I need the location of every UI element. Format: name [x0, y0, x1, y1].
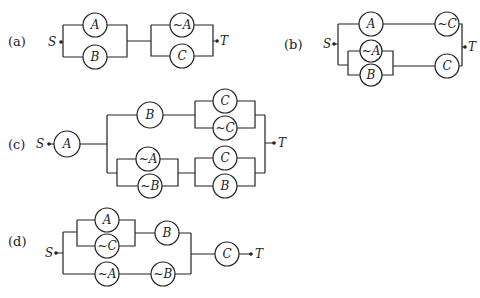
switch-d-notC: ~C	[95, 234, 119, 258]
switch-d-B: B	[155, 221, 179, 245]
terminal-dot-b	[463, 45, 467, 49]
svg-text:A: A	[366, 17, 376, 31]
figure-b: (b) S A ~C ~A B C T	[284, 12, 477, 86]
terminal-label-c: T	[278, 136, 287, 150]
svg-text:B: B	[220, 179, 230, 193]
switch-b-B: B	[360, 64, 382, 86]
svg-text:~C: ~C	[437, 17, 456, 31]
source-label-d: S	[45, 246, 53, 260]
svg-text:B: B	[145, 108, 155, 122]
terminal-label-a: T	[220, 34, 229, 48]
figure-label-d: (d)	[8, 234, 26, 249]
switch-d-C: C	[215, 242, 239, 266]
terminal-dot-a	[215, 39, 219, 43]
svg-text:A: A	[90, 18, 100, 32]
switch-c-C-bottom: C	[213, 146, 237, 170]
switch-b-C: C	[435, 54, 459, 78]
svg-text:A: A	[62, 137, 72, 151]
svg-text:C: C	[222, 247, 231, 261]
source-label-a: S	[48, 35, 56, 49]
svg-text:C: C	[442, 59, 451, 73]
source-label-c: S	[36, 137, 44, 151]
svg-text:~A: ~A	[362, 44, 381, 58]
circuit-diagrams: (a) S A B ~A C T (b) S A	[0, 0, 480, 298]
switch-c-C-top: C	[213, 89, 237, 113]
switch-a-C: C	[170, 44, 194, 68]
switch-c-notC: ~C	[213, 116, 237, 140]
switch-c-A: A	[54, 131, 80, 157]
svg-text:B: B	[366, 68, 376, 82]
switch-b-A: A	[359, 12, 383, 36]
figure-label-b: (b)	[284, 37, 302, 52]
switch-a-A: A	[83, 13, 107, 37]
terminal-dot-d	[249, 252, 253, 256]
figure-c: (c) S A B C ~C ~A ~B C	[8, 89, 287, 198]
switch-d-A: A	[95, 208, 119, 232]
switch-c-B-top: B	[137, 102, 163, 128]
svg-text:C: C	[177, 49, 186, 63]
svg-text:C: C	[220, 94, 229, 108]
switch-c-B-bottom: B	[213, 174, 237, 198]
svg-text:B: B	[90, 50, 100, 64]
svg-text:~C: ~C	[97, 239, 116, 253]
switch-a-B: B	[83, 45, 107, 69]
svg-text:A: A	[102, 213, 112, 227]
svg-text:C: C	[220, 151, 229, 165]
figure-d: (d) S A ~C B ~A ~B C T	[8, 208, 264, 286]
svg-text:B: B	[162, 226, 172, 240]
svg-text:~B: ~B	[154, 267, 173, 281]
switch-d-notB: ~B	[151, 262, 175, 286]
switch-d-notA: ~A	[95, 262, 119, 286]
switch-a-notA: ~A	[170, 13, 194, 37]
svg-text:~A: ~A	[139, 152, 158, 166]
terminal-label-b: T	[468, 40, 477, 54]
svg-text:~A: ~A	[173, 18, 192, 32]
figure-label-c: (c)	[8, 137, 25, 152]
switch-b-notA: ~A	[360, 40, 382, 62]
svg-text:~C: ~C	[215, 121, 234, 135]
figure-a: (a) S A B ~A C T	[8, 13, 229, 69]
terminal-label-d: T	[255, 247, 264, 261]
source-terminal-a	[59, 40, 63, 44]
source-label-b: S	[323, 37, 331, 51]
figure-label-a: (a)	[8, 34, 26, 49]
switch-c-notB: ~B	[138, 174, 162, 198]
svg-text:~A: ~A	[98, 267, 117, 281]
switch-c-notA: ~A	[136, 147, 160, 171]
terminal-dot-c	[272, 141, 276, 145]
svg-text:~B: ~B	[141, 179, 160, 193]
switch-b-notC: ~C	[435, 12, 459, 36]
